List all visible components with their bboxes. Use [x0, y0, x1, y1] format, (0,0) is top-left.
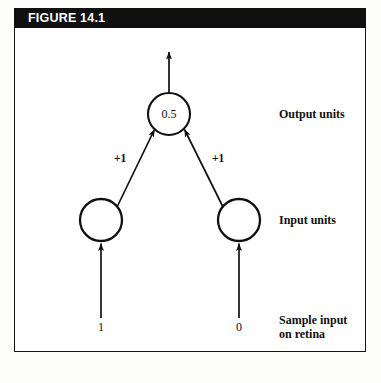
- input-value-right: 0: [224, 320, 254, 335]
- input-unit-right-node[interactable]: [218, 199, 260, 241]
- sample-input-label-line2: on retina: [279, 327, 325, 341]
- network-diagram: 0.5 +1 +1 1 0 Output units Input units S…: [14, 28, 366, 352]
- figure-page: FIGURE 14.1 0.5 +1: [0, 0, 381, 383]
- sample-input-label: Sample input on retina: [279, 313, 347, 341]
- edge-right: [185, 130, 223, 207]
- output-units-label: Output units: [279, 107, 345, 121]
- input-unit-left-node[interactable]: [80, 199, 122, 241]
- edge-left: [118, 130, 155, 207]
- sample-input-label-line1: Sample input: [279, 313, 347, 327]
- figure-header-label: FIGURE 14.1: [28, 11, 105, 25]
- input-units-label: Input units: [279, 213, 336, 227]
- edge-right-weight-label: +1: [212, 152, 224, 164]
- figure-header-bar: FIGURE 14.1: [14, 8, 366, 28]
- network-diagram-svg: [14, 28, 366, 352]
- output-unit-value: 0.5: [149, 107, 189, 122]
- input-value-left: 1: [86, 320, 116, 335]
- edge-left-weight-label: +1: [114, 152, 126, 164]
